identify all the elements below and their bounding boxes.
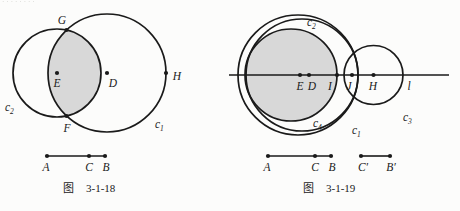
point-C-label: C	[85, 161, 93, 173]
caption-number: 3-1-19	[326, 182, 356, 194]
figure-3-1-19: E D I J H l c2 c4 c1 c3 A C B C′ B′ 图 3-…	[229, 15, 449, 195]
point-Cprime-label: C′	[358, 161, 369, 173]
point-A-dot	[266, 154, 270, 158]
figure-3-1-18: G F E D H c2 c1 A C B 图 3-1-18	[5, 14, 182, 195]
point-G-dot	[64, 28, 68, 32]
point-D-dot	[307, 73, 311, 77]
point-H-label: H	[368, 80, 378, 92]
geometry-figures: G F E D H c2 c1 A C B 图 3-1-18	[0, 0, 460, 211]
point-Bprime-dot	[388, 154, 392, 158]
point-G-label: G	[58, 14, 67, 26]
point-E-label: E	[52, 77, 60, 89]
point-H-label: H	[172, 70, 182, 82]
point-D-label: D	[307, 80, 317, 92]
caption-prefix: 图	[303, 182, 314, 195]
point-F-dot	[64, 114, 68, 118]
point-F-label: F	[62, 122, 71, 134]
point-E-label: E	[295, 80, 303, 92]
point-B-dot	[103, 154, 107, 158]
point-Cprime-dot	[359, 154, 363, 158]
circle-c2-label: c2	[5, 101, 14, 116]
circle-c1-label: c1	[155, 118, 164, 133]
scan-edge-artifact: ········	[2, 0, 62, 6]
point-B-label: B	[328, 161, 335, 173]
point-A-label: A	[41, 161, 50, 173]
point-B-label: B	[102, 161, 109, 173]
point-J-label: J	[346, 80, 352, 92]
point-E-dot	[298, 73, 302, 77]
point-H-dot	[371, 73, 375, 77]
point-B-dot	[329, 154, 333, 158]
point-A-label: A	[262, 161, 271, 173]
point-E-dot	[55, 71, 59, 75]
circle-c1-label: c1	[352, 124, 361, 139]
point-D-label: D	[108, 77, 118, 89]
circle-c3-label: c3	[403, 111, 412, 126]
point-C-dot	[313, 154, 317, 158]
line-l-label: l	[407, 80, 410, 92]
point-I-dot	[335, 73, 339, 77]
point-J-dot	[350, 73, 354, 77]
point-C-label: C	[311, 161, 319, 173]
point-H-dot	[164, 71, 168, 75]
point-A-dot	[45, 154, 49, 158]
point-Bprime-label: B′	[386, 161, 396, 173]
point-C-dot	[87, 154, 91, 158]
point-D-dot	[105, 71, 109, 75]
caption-prefix: 图	[63, 182, 74, 195]
caption-number: 3-1-18	[86, 182, 116, 194]
